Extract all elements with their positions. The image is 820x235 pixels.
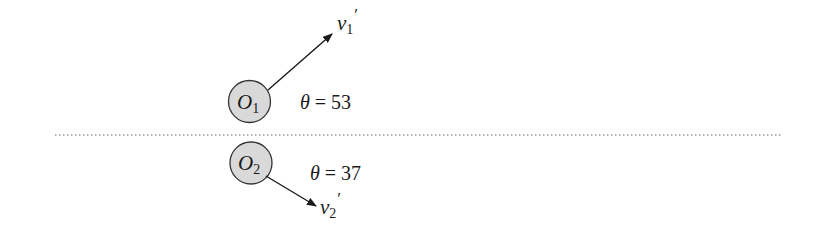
diagram-canvas: O1 v1′ θ = 53 O2 v2′ θ = 37 [0,0,820,235]
collision-diagram: O1 v1′ θ = 53 O2 v2′ θ = 37 [0,0,820,235]
velocity-arrow-v2 [266,176,316,206]
velocity-arrow-v1 [268,34,332,90]
velocity-label-v2: v2′ [320,189,340,221]
body-o2: O2 v2′ θ = 37 [230,142,361,221]
angle-label-o2: θ = 37 [310,162,361,184]
body-o1: O1 v1′ θ = 53 [229,5,358,123]
velocity-label-v1: v1′ [337,5,357,37]
angle-label-o1: θ = 53 [300,91,351,113]
